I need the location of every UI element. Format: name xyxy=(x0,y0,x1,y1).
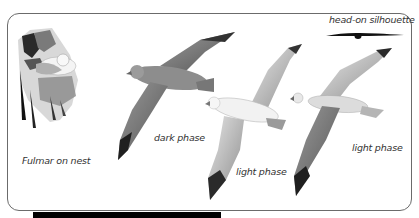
dark-phase-label: dark phase xyxy=(154,132,205,143)
light-phase-right-label: light phase xyxy=(352,142,403,153)
head-on-silhouette-label: head-on silhouette xyxy=(329,14,415,25)
illustrations-layer xyxy=(0,0,419,218)
nest-label: Fulmar on nest xyxy=(22,155,90,166)
light-phase-right-illustration xyxy=(290,48,392,196)
head-on-silhouette-icon xyxy=(326,33,404,39)
light-phase-center-label: light phase xyxy=(236,166,287,177)
nest-illustration xyxy=(18,28,78,128)
